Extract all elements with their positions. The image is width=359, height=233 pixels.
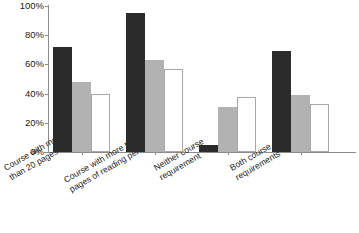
bar	[53, 47, 72, 152]
y-tick-mark-80	[45, 35, 48, 36]
y-tick-label-60: 60%	[2, 59, 44, 69]
bar	[310, 104, 329, 152]
x-tick-mark	[228, 152, 229, 155]
x-axis-category-labels: Course with more than 20 pages of writin…	[0, 152, 359, 233]
bar	[237, 97, 256, 152]
x-tick-mark	[82, 152, 83, 155]
bar	[272, 51, 291, 152]
y-tick-label-20: 20%	[2, 118, 44, 128]
bar	[199, 145, 218, 152]
bar-group	[53, 6, 110, 152]
x-tick-mark	[301, 152, 302, 155]
y-tick-mark-20	[45, 123, 48, 124]
bar	[164, 69, 183, 152]
bar-group	[126, 6, 183, 152]
bar	[91, 94, 110, 152]
bar-group	[272, 6, 329, 152]
bar	[145, 60, 164, 152]
x-tick-mark	[155, 152, 156, 155]
bar	[218, 107, 237, 152]
y-tick-label-100: 100%	[2, 1, 44, 11]
y-tick-mark-0	[45, 152, 48, 153]
bar	[126, 13, 145, 152]
bar	[72, 82, 91, 152]
y-tick-label-40: 40%	[2, 89, 44, 99]
y-tick-mark-100	[45, 6, 48, 7]
bar-group	[199, 6, 256, 152]
y-tick-label-80: 80%	[2, 30, 44, 40]
bar	[291, 95, 310, 152]
bar-chart: 0%20%40%60%80%100% Course with more than…	[0, 0, 359, 233]
y-tick-mark-40	[45, 94, 48, 95]
y-tick-mark-60	[45, 64, 48, 65]
